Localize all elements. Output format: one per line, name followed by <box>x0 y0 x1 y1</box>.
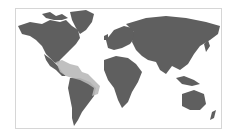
africa <box>104 56 142 108</box>
australia <box>182 90 206 110</box>
europe <box>106 26 136 50</box>
north-america <box>18 20 80 64</box>
canadian-arctic <box>42 12 68 20</box>
british-isles <box>104 34 108 40</box>
land <box>18 10 220 126</box>
southeast-asia-islands <box>176 76 200 86</box>
new-zealand <box>210 110 216 120</box>
world-map <box>0 0 236 139</box>
